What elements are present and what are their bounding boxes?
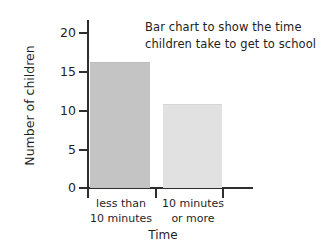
y-tick-label-20: 20 bbox=[36, 27, 76, 39]
x-category-label-1-line-1: less than bbox=[86, 196, 156, 211]
x-category-label-2-line-1: 10 minutes bbox=[158, 196, 228, 211]
x-category-label-1-line-2: 10 minutes bbox=[86, 211, 156, 226]
chart-title-line-1: Bar chart to show the time bbox=[145, 19, 333, 36]
x-category-label-2: 10 minutes or more bbox=[158, 196, 228, 226]
bar-less-than-10-minutes bbox=[90, 62, 150, 188]
y-tick-10 bbox=[79, 110, 89, 112]
x-category-label-2-line-2: or more bbox=[158, 211, 228, 226]
x-axis-title: Time bbox=[118, 228, 208, 242]
y-tick-20 bbox=[79, 32, 89, 34]
y-tick-5 bbox=[79, 149, 89, 151]
bar-chart: Bar chart to show the time children take… bbox=[0, 0, 333, 250]
x-category-label-1: less than 10 minutes bbox=[86, 196, 156, 226]
y-tick-label-0: 0 bbox=[36, 182, 76, 194]
bar-10-minutes-or-more bbox=[163, 104, 222, 188]
y-axis-line bbox=[87, 20, 89, 189]
chart-title: Bar chart to show the time children take… bbox=[145, 19, 333, 53]
y-tick-label-5: 5 bbox=[36, 144, 76, 156]
y-tick-15 bbox=[79, 71, 89, 73]
y-tick-label-15: 15 bbox=[36, 66, 76, 78]
y-axis-title: Number of children bbox=[22, 31, 37, 181]
chart-title-line-2: children take to get to school bbox=[145, 36, 333, 53]
y-tick-label-10: 10 bbox=[36, 105, 76, 117]
